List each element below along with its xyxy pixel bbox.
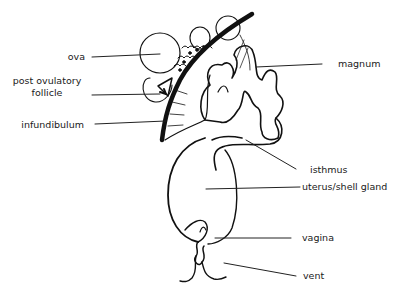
label-infundibulum: infundibulum — [14, 119, 84, 131]
reproductive-tract-drawing — [0, 0, 395, 300]
ovary-group — [140, 16, 240, 102]
label-isthmus: isthmus — [310, 164, 348, 176]
label-post-ovulatory-line2: follicle — [6, 87, 88, 99]
label-magnum: magnum — [338, 58, 380, 70]
diagram-canvas: ova post ovulatory follicle infundibulum… — [0, 0, 395, 300]
label-uterus-shell-gland: uterus/shell gland — [302, 181, 387, 193]
label-post-ovulatory-line1: post ovulatory — [6, 75, 88, 87]
vagina-shape — [195, 242, 204, 264]
label-vagina: vagina — [302, 232, 334, 244]
isthmus-shape — [212, 118, 282, 170]
magnum-shape — [201, 46, 283, 140]
label-vent: vent — [303, 270, 324, 282]
label-post-ovulatory: post ovulatory follicle — [6, 75, 88, 99]
label-ova: ova — [40, 51, 85, 63]
uterus-shape — [168, 138, 205, 242]
